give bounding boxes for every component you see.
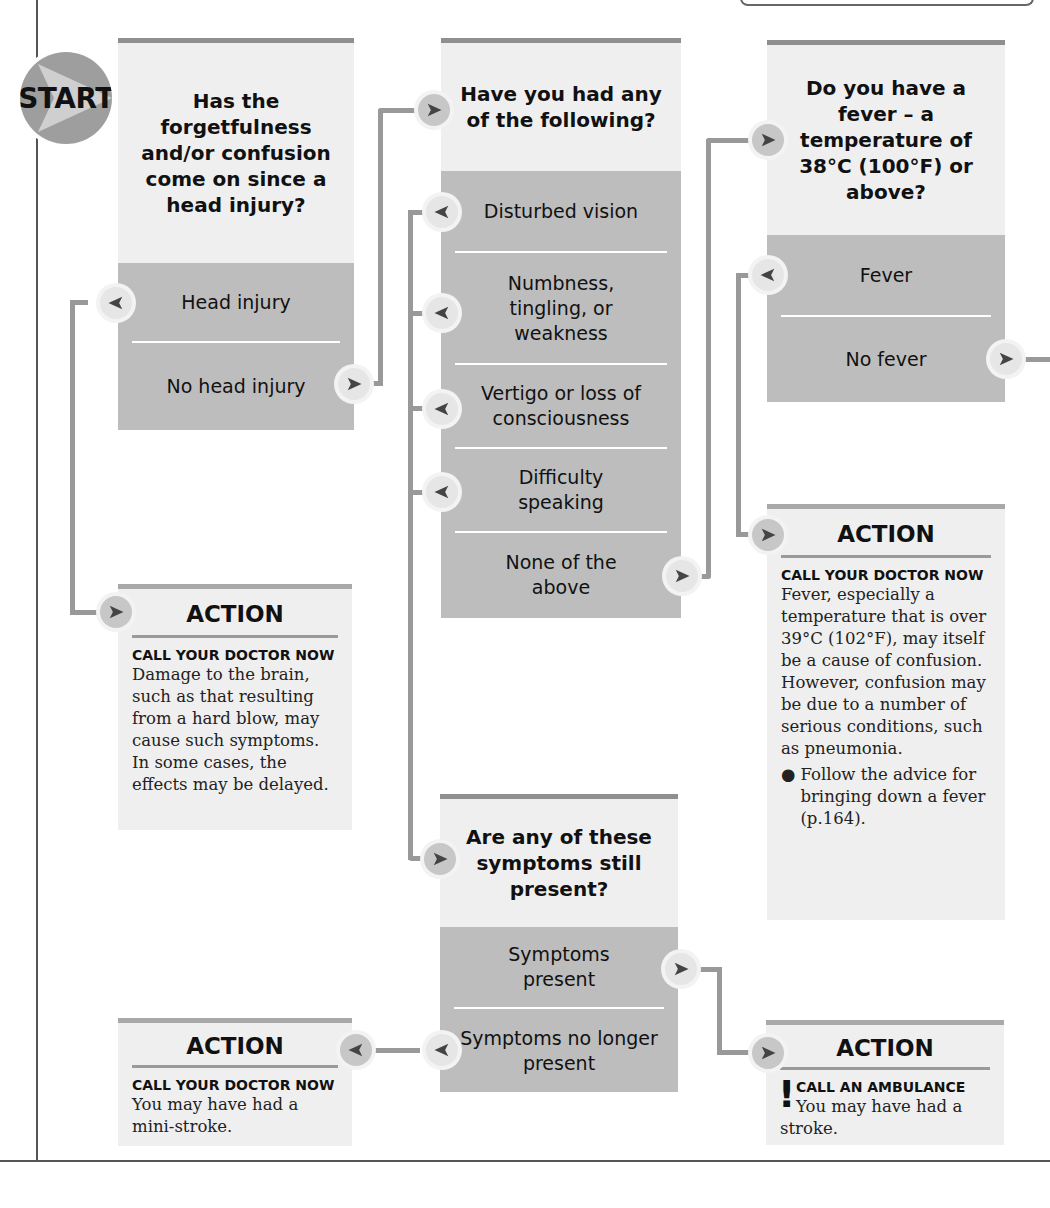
arrow-left-icon[interactable] [426,476,458,508]
connector-line [408,311,426,316]
option-numbness[interactable]: Numbness, tingling, or weakness [441,253,681,363]
arrow-left-icon[interactable] [100,287,132,319]
arrow-right-icon[interactable] [418,94,450,126]
action-body: Fever, especially a temperature that is … [781,584,991,760]
arrow-left-icon[interactable] [752,259,784,291]
arrow-left-icon[interactable] [426,297,458,329]
question-text: Have you had any of the following? [441,43,681,171]
action-heading: CALL YOUR DOCTOR NOW [781,566,991,584]
connector-line [408,210,413,860]
connector-line [1022,357,1050,362]
page-frame-bottom-border [0,1160,1050,1162]
connector-line [70,300,75,615]
bullet-icon: ● [781,764,795,830]
option-symptoms-present[interactable]: Symptoms present [440,927,678,1007]
arrow-right-icon[interactable] [100,596,132,628]
option-symptoms-no-longer-present[interactable]: Symptoms no longer present [440,1009,678,1092]
action-card-fever: ACTION CALL YOUR DOCTOR NOW Fever, espec… [767,504,1005,920]
action-title: ACTION [132,1023,338,1068]
action-bullet-text: Follow the advice for bringing down a fe… [800,764,991,830]
connector-line [717,967,722,1055]
connector-line [706,138,711,579]
question-text: Do you have a fever – a temperature of 3… [767,45,1005,235]
arrow-left-icon[interactable] [426,196,458,228]
option-head-injury[interactable]: Head injury [118,263,354,341]
start-label: START [20,52,112,144]
action-title: ACTION [780,1025,990,1070]
question-card-fever: Do you have a fever – a temperature of 3… [767,40,1005,402]
option-disturbed-vision[interactable]: Disturbed vision [441,171,681,251]
arrow-right-icon[interactable] [665,953,697,985]
question-text: Are any of these symptoms still present? [440,799,678,927]
arrow-right-icon[interactable] [666,560,698,592]
arrow-left-icon[interactable] [340,1034,372,1066]
option-difficulty-speaking[interactable]: Difficulty speaking [441,449,681,531]
connector-line [370,1048,420,1053]
arrow-right-icon[interactable] [752,519,784,551]
option-vertigo[interactable]: Vertigo or loss of consciousness [441,365,681,447]
page-frame-left-border [36,0,38,1160]
question-card-symptoms-present: Are any of these symptoms still present?… [440,794,678,1092]
question-card-head-injury: Has the forgetfulness and/or confusion c… [118,38,354,430]
start-badge: START [20,52,112,144]
option-no-fever[interactable]: No fever [767,317,1005,402]
arrow-left-icon[interactable] [426,393,458,425]
connector-line [378,108,418,113]
action-title: ACTION [132,589,338,638]
arrow-right-icon[interactable] [752,1037,784,1069]
connector-line [706,138,751,143]
connector-line [378,108,383,386]
arrow-right-icon[interactable] [424,843,456,875]
top-panel-edge [740,0,1034,6]
urgent-icon: ! [778,1074,795,1114]
connector-line [408,490,426,495]
option-fever[interactable]: Fever [767,235,1005,315]
arrow-left-icon[interactable] [426,1034,458,1066]
action-card-mini-stroke: ACTION CALL YOUR DOCTOR NOW You may have… [118,1018,352,1146]
question-card-symptoms: Have you had any of the following? Distu… [441,38,681,618]
action-card-stroke: ACTION ! CALL AN AMBULANCE You may have … [766,1020,1004,1145]
arrow-right-icon[interactable] [752,124,784,156]
action-body: Damage to the brain, such as that result… [132,664,338,796]
connector-line [736,273,741,537]
option-none-of-above[interactable]: None of the above [441,533,681,616]
action-heading: CALL AN AMBULANCE [780,1078,990,1096]
question-text: Has the forgetfulness and/or confusion c… [118,43,354,263]
action-title: ACTION [781,509,991,558]
connector-line [70,610,100,615]
option-no-head-injury[interactable]: No head injury [118,343,354,430]
action-heading: CALL YOUR DOCTOR NOW [132,646,338,664]
action-heading: CALL YOUR DOCTOR NOW [132,1076,338,1094]
arrow-right-icon[interactable] [338,368,370,400]
connector-line [408,406,426,411]
connector-line [717,1050,757,1055]
action-body: You may have had a mini-stroke. [132,1094,338,1138]
action-card-head-injury: ACTION CALL YOUR DOCTOR NOW Damage to th… [118,584,352,830]
action-bullet: ● Follow the advice for bringing down a … [781,764,991,830]
arrow-right-icon[interactable] [990,343,1022,375]
action-body: You may have had a stroke. [780,1096,990,1140]
